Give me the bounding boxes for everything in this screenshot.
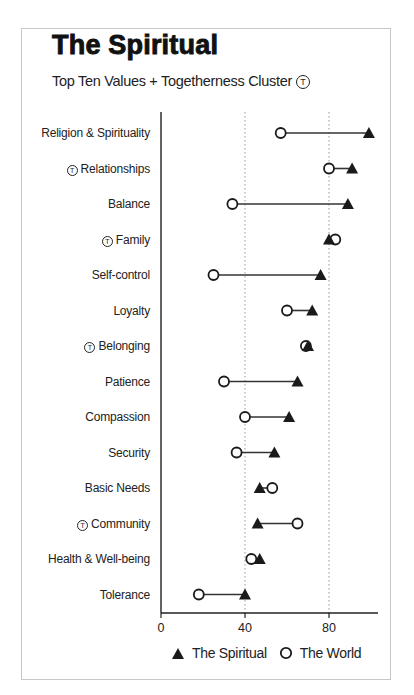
world-point-open-circle-icon bbox=[219, 377, 229, 387]
plot-area bbox=[0, 0, 414, 695]
world-point-open-circle-icon bbox=[324, 164, 334, 174]
world-point-open-circle-icon bbox=[194, 590, 204, 600]
chart-legend: The Spiritual The World bbox=[171, 645, 373, 661]
world-point-open-circle-icon bbox=[267, 483, 277, 493]
x-tick-0: 0 bbox=[158, 621, 165, 635]
x-tick-40: 40 bbox=[238, 621, 252, 635]
legend-label-world: The World bbox=[300, 645, 362, 661]
legend-item-spiritual: The Spiritual bbox=[171, 645, 267, 661]
world-point-open-circle-icon bbox=[227, 199, 237, 209]
open-circle-icon bbox=[279, 646, 293, 660]
world-point-open-circle-icon bbox=[232, 448, 242, 458]
world-point-open-circle-icon bbox=[209, 270, 219, 280]
legend-item-world: The World bbox=[279, 645, 362, 661]
filled-triangle-icon bbox=[171, 647, 185, 660]
legend-label-spiritual: The Spiritual bbox=[192, 645, 267, 661]
world-point-open-circle-icon bbox=[240, 412, 250, 422]
x-tick-80: 80 bbox=[322, 621, 336, 635]
world-point-open-circle-icon bbox=[293, 519, 303, 529]
world-point-open-circle-icon bbox=[276, 128, 286, 138]
world-point-open-circle-icon bbox=[282, 306, 292, 316]
